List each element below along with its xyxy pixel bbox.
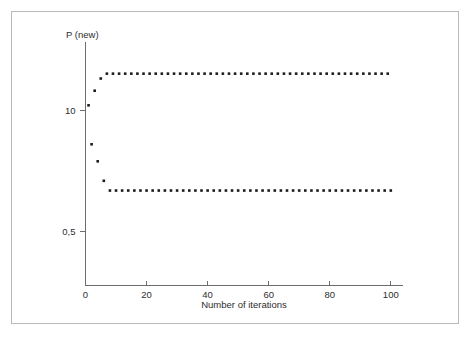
data-point [322, 189, 325, 192]
axes [86, 42, 404, 286]
data-point [109, 189, 112, 192]
data-point [136, 72, 139, 75]
data-point [304, 189, 307, 192]
data-point [106, 72, 109, 75]
data-point [157, 189, 160, 192]
data-point [347, 189, 350, 192]
data-point [335, 189, 338, 192]
data-point [277, 72, 280, 75]
y-axis-title: P (new) [66, 29, 99, 40]
data-point [118, 72, 121, 75]
data-point [176, 189, 179, 192]
data-point [219, 189, 222, 192]
data-point [173, 72, 176, 75]
data-point [203, 72, 206, 75]
data-points-layer [87, 72, 392, 191]
data-point [313, 72, 316, 75]
data-point [368, 72, 371, 75]
data-point [87, 104, 90, 107]
y-axis-ticks: 100,5 [62, 105, 85, 238]
data-point [93, 89, 96, 92]
data-point [359, 189, 362, 192]
data-point [179, 72, 182, 75]
data-point [273, 189, 276, 192]
data-point [209, 72, 212, 75]
data-point [154, 72, 157, 75]
data-point [127, 189, 130, 192]
data-point [237, 189, 240, 192]
figure-page: 100,5 020406080100 P (new) Number of ite… [0, 0, 471, 342]
data-point [310, 189, 313, 192]
data-point [151, 189, 154, 192]
data-point [145, 189, 148, 192]
data-point [280, 189, 283, 192]
data-point [142, 72, 145, 75]
data-point [133, 189, 136, 192]
data-point [338, 72, 341, 75]
data-point [356, 72, 359, 75]
data-point [316, 189, 319, 192]
data-point [289, 72, 292, 75]
data-point [365, 189, 368, 192]
data-point [350, 72, 353, 75]
data-point [292, 189, 295, 192]
data-point [298, 189, 301, 192]
data-point [331, 72, 334, 75]
data-point [301, 72, 304, 75]
data-point [246, 72, 249, 75]
data-point [139, 189, 142, 192]
data-point [96, 160, 99, 163]
data-point [283, 72, 286, 75]
data-point [115, 189, 118, 192]
data-point [267, 189, 270, 192]
data-point [328, 189, 331, 192]
y-tick-label: 10 [65, 105, 76, 116]
data-point [252, 72, 255, 75]
x-tick-label: 40 [202, 289, 213, 300]
data-point [222, 72, 225, 75]
data-point [164, 189, 167, 192]
data-point [161, 72, 164, 75]
x-tick-label: 100 [383, 289, 399, 300]
data-point [243, 189, 246, 192]
data-point [124, 72, 127, 75]
data-point [286, 189, 289, 192]
data-series-0 [87, 72, 389, 106]
data-point [121, 189, 124, 192]
data-point [377, 189, 380, 192]
data-point [344, 72, 347, 75]
x-axis-title: Number of iterations [201, 299, 287, 310]
x-tick-label: 0 [83, 289, 88, 300]
data-point [261, 189, 264, 192]
data-point [264, 72, 267, 75]
data-point [206, 189, 209, 192]
data-point [188, 189, 191, 192]
data-point [270, 72, 273, 75]
data-point [191, 72, 194, 75]
data-point [249, 189, 252, 192]
data-point [194, 189, 197, 192]
data-point [371, 189, 374, 192]
y-tick-label: 0,5 [62, 226, 75, 237]
data-point [167, 72, 170, 75]
scatter-plot: 100,5 020406080100 P (new) Number of ite… [0, 0, 471, 342]
data-point [362, 72, 365, 75]
data-point [200, 189, 203, 192]
data-point [99, 77, 102, 80]
data-point [228, 72, 231, 75]
data-point [389, 189, 392, 192]
data-point [170, 189, 173, 192]
data-point [90, 143, 93, 146]
data-series-1 [90, 143, 392, 192]
data-point [148, 72, 151, 75]
data-point [374, 72, 377, 75]
x-tick-label: 60 [263, 289, 274, 300]
x-tick-label: 80 [324, 289, 335, 300]
data-point [319, 72, 322, 75]
data-point [185, 72, 188, 75]
data-point [341, 189, 344, 192]
chart-figure: 100,5 020406080100 P (new) Number of ite… [0, 0, 471, 342]
x-axis-ticks: 020406080100 [83, 281, 399, 300]
data-point [295, 72, 298, 75]
data-point [182, 189, 185, 192]
